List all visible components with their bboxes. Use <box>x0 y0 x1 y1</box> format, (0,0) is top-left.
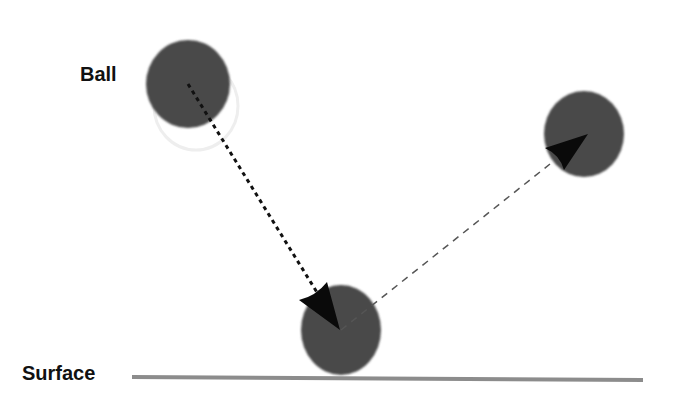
rebound-trajectory-line <box>341 164 550 330</box>
surface-label: Surface <box>22 362 95 385</box>
bounce-diagram <box>0 0 675 406</box>
ball-label: Ball <box>80 63 117 86</box>
surface-line <box>132 377 643 380</box>
ball-rebound <box>544 91 624 177</box>
